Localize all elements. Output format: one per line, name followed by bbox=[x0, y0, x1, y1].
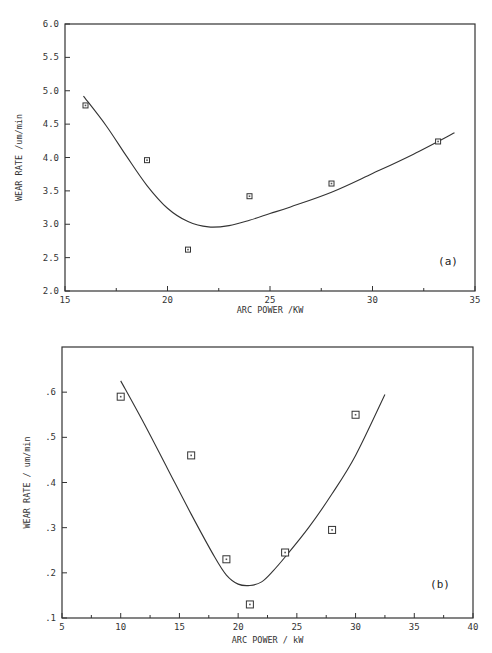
y-axis-label: WEAR RATE /um/min bbox=[14, 114, 24, 201]
x-tick-label: 20 bbox=[162, 295, 173, 305]
fit-curve bbox=[121, 381, 385, 586]
fit-curve bbox=[83, 96, 454, 227]
x-tick-label: 20 bbox=[233, 622, 244, 632]
x-tick-label: 25 bbox=[265, 295, 276, 305]
y-tick-label: 2.0 bbox=[43, 286, 59, 296]
x-tick-label: 40 bbox=[468, 622, 479, 632]
x-tick-label: 30 bbox=[367, 295, 378, 305]
x-axis-label: ARC POWER / kW bbox=[232, 635, 305, 645]
x-tick-label: 10 bbox=[115, 622, 126, 632]
y-tick-label: 5.5 bbox=[43, 52, 59, 62]
y-tick-label: 5.0 bbox=[43, 86, 59, 96]
chart-panel-b: 510152025303540.1.2.3.4.5.6ARC POWER / k… bbox=[22, 347, 478, 645]
y-tick-label: .1 bbox=[45, 613, 56, 623]
data-point-dot bbox=[249, 604, 251, 606]
x-tick-label: 15 bbox=[174, 622, 185, 632]
data-point-dot bbox=[187, 249, 189, 251]
y-axis-label: WEAR RATE / um/min bbox=[22, 436, 32, 528]
y-tick-label: 4.0 bbox=[43, 153, 59, 163]
plot-frame bbox=[65, 24, 475, 291]
y-tick-label: 3.0 bbox=[43, 219, 59, 229]
x-tick-label: 15 bbox=[60, 295, 71, 305]
y-tick-label: 3.5 bbox=[43, 186, 59, 196]
x-tick-label: 30 bbox=[350, 622, 361, 632]
y-tick-label: 4.5 bbox=[43, 119, 59, 129]
data-point-dot bbox=[355, 414, 357, 416]
y-tick-label: 6.0 bbox=[43, 19, 59, 29]
chart-panel-a: 15202530352.02.53.03.54.04.55.05.56.0ARC… bbox=[14, 19, 480, 315]
data-point-dot bbox=[226, 558, 228, 560]
figure: 15202530352.02.53.03.54.04.55.05.56.0ARC… bbox=[0, 0, 492, 653]
data-point-dot bbox=[437, 141, 439, 143]
data-point-dot bbox=[190, 455, 192, 457]
data-point-dot bbox=[120, 396, 122, 398]
y-tick-label: .3 bbox=[45, 523, 56, 533]
data-point-dot bbox=[249, 195, 251, 197]
x-tick-label: 35 bbox=[409, 622, 420, 632]
x-tick-label: 35 bbox=[470, 295, 481, 305]
panel-label: (a) bbox=[438, 255, 458, 268]
x-axis-label: ARC POWER /KW bbox=[237, 305, 304, 315]
x-tick-label: 5 bbox=[59, 622, 64, 632]
data-point-dot bbox=[85, 105, 87, 107]
panel-label: (b) bbox=[430, 578, 450, 591]
y-tick-label: .5 bbox=[45, 432, 56, 442]
data-point-dot bbox=[284, 552, 286, 554]
x-tick-label: 25 bbox=[291, 622, 302, 632]
y-tick-label: 2.5 bbox=[43, 253, 59, 263]
y-tick-label: .6 bbox=[45, 387, 56, 397]
data-point-dot bbox=[331, 529, 333, 531]
data-point-dot bbox=[331, 183, 333, 185]
data-point-dot bbox=[146, 159, 148, 161]
y-tick-label: .2 bbox=[45, 568, 56, 578]
y-tick-label: .4 bbox=[45, 478, 56, 488]
